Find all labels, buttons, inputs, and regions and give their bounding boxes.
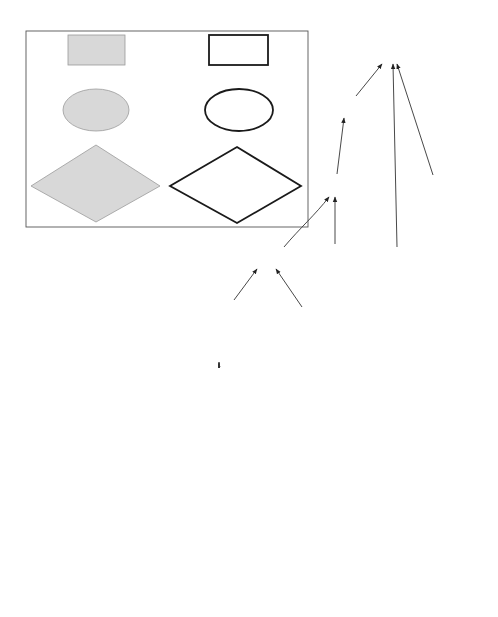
- legend-source-event: [68, 35, 125, 65]
- edge-1-to-0: [397, 64, 433, 175]
- legend-internal-state: [205, 89, 273, 131]
- fault-tree-diagram: [0, 0, 498, 617]
- edge-2.1-to-2: [337, 118, 344, 174]
- legend-source-state: [63, 89, 129, 131]
- edge-2.1.2.2-to-2.1.2: [234, 269, 257, 300]
- legend-internal-event: [209, 35, 268, 65]
- legend: [26, 31, 308, 227]
- edge-3-to-0: [393, 64, 397, 247]
- edge-2.1.2.1-to-2.1.2: [276, 269, 302, 307]
- edge-2-to-0: [356, 64, 382, 96]
